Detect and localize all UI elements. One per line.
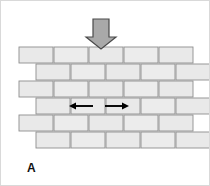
brick	[71, 64, 105, 80]
brick	[106, 132, 140, 148]
brick	[159, 81, 193, 97]
brick	[141, 132, 175, 148]
brick	[159, 115, 193, 131]
brick	[89, 47, 123, 63]
brick	[124, 47, 158, 63]
load-arrow-shape	[86, 19, 116, 49]
brick	[159, 47, 193, 63]
brick	[141, 98, 175, 114]
brick	[36, 64, 70, 80]
brick-row	[36, 132, 210, 148]
brick	[36, 98, 70, 114]
brick	[19, 47, 53, 63]
brick	[54, 81, 88, 97]
brick-wall	[19, 47, 210, 148]
brick	[141, 64, 175, 80]
brick	[89, 81, 123, 97]
brick	[106, 64, 140, 80]
brick	[36, 132, 70, 148]
brick	[71, 132, 105, 148]
brick	[54, 115, 88, 131]
vertical-load-arrow	[86, 19, 116, 49]
brick-row	[19, 47, 193, 63]
brick	[54, 47, 88, 63]
brick	[176, 132, 210, 148]
brick-wall-diagram	[1, 1, 210, 186]
figure-panel-a: A	[0, 0, 210, 186]
brick	[124, 81, 158, 97]
brick	[176, 98, 210, 114]
brick-row	[36, 64, 210, 80]
brick	[124, 115, 158, 131]
brick	[176, 64, 210, 80]
brick	[19, 81, 53, 97]
panel-label-a: A	[27, 161, 36, 175]
brick-row	[19, 81, 193, 97]
brick-row	[19, 115, 193, 131]
brick	[19, 115, 53, 131]
brick	[89, 115, 123, 131]
